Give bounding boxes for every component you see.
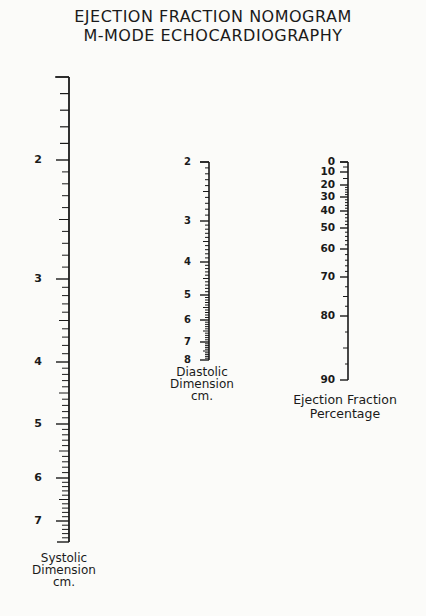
ef-tick-label: 20 — [320, 178, 335, 190]
diastolic-tick-label: 3 — [184, 215, 191, 226]
ef-tick-label: 10 — [320, 165, 335, 177]
systolic-axis-label: Systolic Dimension cm. — [19, 552, 109, 588]
diastolic-tick-label: 4 — [184, 256, 191, 267]
diastolic-axis-label: Diastolic Dimension cm. — [157, 366, 247, 402]
ef-tick-label: 50 — [320, 221, 335, 233]
systolic-label-line3: cm. — [19, 576, 109, 588]
diastolic-label-line3: cm. — [157, 390, 247, 402]
diastolic-tick-label: 6 — [184, 314, 191, 325]
ef-tick-label: 90 — [320, 373, 335, 385]
systolic-tick-label: 3 — [34, 272, 42, 285]
ef-tick-label: 30 — [320, 190, 335, 202]
ef-tick-label: 60 — [320, 242, 335, 254]
diastolic-tick-label: 7 — [184, 336, 191, 347]
nomogram-scales: 23456723456780102030405060708090 — [0, 0, 426, 616]
diastolic-tick-label: 8 — [184, 354, 191, 365]
systolic-tick-label: 4 — [34, 355, 42, 368]
systolic-tick-label: 5 — [34, 417, 42, 430]
ef-tick-label: 80 — [320, 309, 335, 321]
ef-label-line1: Ejection Fraction — [270, 393, 420, 407]
ejection-fraction-axis-label: Ejection Fraction Percentage — [270, 393, 420, 421]
ef-label-line2: Percentage — [270, 407, 420, 421]
systolic-tick-label: 2 — [34, 153, 42, 166]
diastolic-tick-label: 5 — [184, 289, 191, 300]
systolic-tick-label: 6 — [34, 471, 42, 484]
systolic-tick-label: 7 — [34, 514, 42, 527]
ef-tick-label: 70 — [320, 270, 335, 282]
ef-tick-label: 40 — [320, 204, 335, 216]
diastolic-tick-label: 2 — [184, 156, 191, 167]
